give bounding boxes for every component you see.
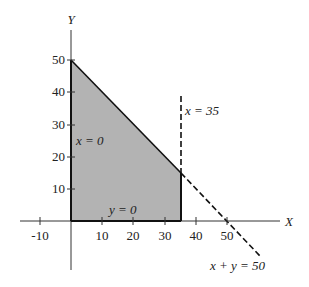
x-tick-label: 50 bbox=[221, 228, 234, 243]
x-tick-label: -10 bbox=[31, 228, 48, 243]
line-x-plus-y-50 bbox=[181, 173, 260, 256]
label-x-0: x = 0 bbox=[75, 133, 104, 148]
label-x-plus-y-50: x + y = 50 bbox=[209, 258, 266, 273]
label-x-35: x = 35 bbox=[184, 103, 220, 118]
y-tick-label: 40 bbox=[52, 84, 65, 99]
x-axis-label: X bbox=[284, 214, 294, 229]
y-tick-label: 30 bbox=[52, 117, 65, 132]
x-tick-label: 10 bbox=[96, 228, 109, 243]
x-tick-label: 20 bbox=[127, 228, 140, 243]
x-tick-label: 40 bbox=[190, 228, 203, 243]
y-tick-label: 10 bbox=[52, 181, 65, 196]
y-tick-label: 50 bbox=[52, 52, 65, 67]
y-axis-label: Y bbox=[67, 12, 76, 27]
x-tick-label: 30 bbox=[159, 228, 172, 243]
feasible-region-diagram: -10 10 20 30 40 50 10 20 30 40 50 Y X x … bbox=[0, 0, 309, 287]
label-y-0: y = 0 bbox=[107, 202, 137, 217]
y-tick-label: 20 bbox=[52, 149, 65, 164]
